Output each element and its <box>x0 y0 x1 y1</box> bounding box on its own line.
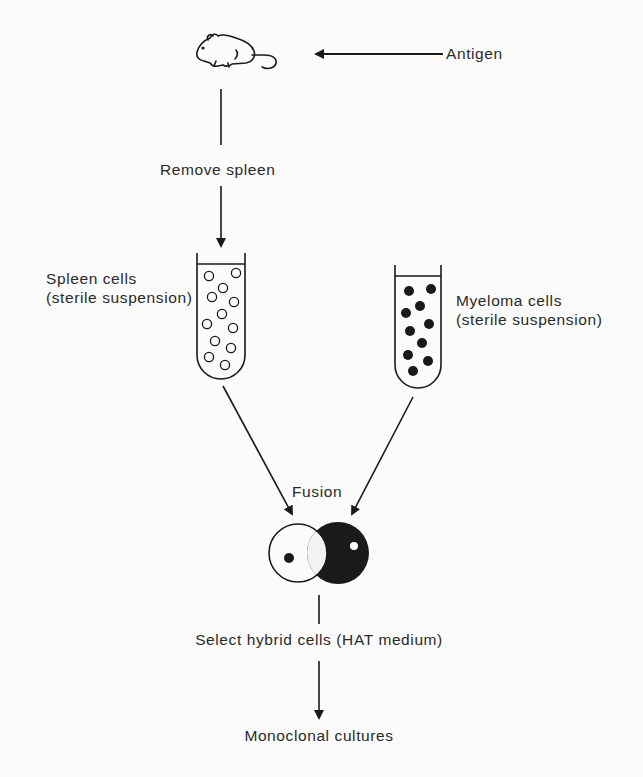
spleen-cell <box>204 352 213 361</box>
spleen-cell <box>229 297 238 306</box>
myeloma-cell <box>424 319 434 329</box>
remove-spleen-label: Remove spleen <box>160 160 276 179</box>
myeloma-cell <box>404 286 414 296</box>
antigen-label: Antigen <box>446 44 503 63</box>
spleen-cell <box>217 309 226 318</box>
fusion-label: Fusion <box>292 482 342 501</box>
spleen-cell <box>228 323 237 332</box>
myeloma-cell <box>423 356 433 366</box>
myeloma-cell <box>405 326 415 336</box>
select-hybrid-label: Select hybrid cells (HAT medium) <box>195 630 443 649</box>
myeloma-cells-label-line2: (sterile suspension) <box>456 310 602 329</box>
diagram-canvas: Antigen Remove spleen Spleen cells (ster… <box>0 0 643 777</box>
spleen-cell <box>202 319 211 328</box>
hybrid-cell-icon <box>269 522 369 584</box>
myeloma-cells-label-line1: Myeloma cells <box>456 291 562 310</box>
spleen-cells-label-line2: (sterile suspension) <box>46 288 192 307</box>
spleen-to-fusion-arrow <box>223 386 292 514</box>
myeloma-to-fusion-arrow <box>352 397 413 514</box>
myeloma-cell <box>417 338 427 348</box>
myeloma-tube <box>395 265 441 388</box>
mouse-icon <box>197 34 276 68</box>
myeloma-cell <box>415 301 425 311</box>
spleen-tube <box>197 253 245 379</box>
spleen-cell <box>220 360 229 369</box>
spleen-cell <box>231 268 240 277</box>
diagram-graphics <box>0 0 643 777</box>
spleen-cells-label-line1: Spleen cells <box>46 269 137 288</box>
myeloma-cell <box>426 284 436 294</box>
spleen-cell <box>218 283 227 292</box>
monoclonal-cultures-label: Monoclonal cultures <box>244 726 393 745</box>
myeloma-cell <box>403 350 413 360</box>
spleen-cell <box>207 292 216 301</box>
spleen-cell <box>226 343 235 352</box>
spleen-cell <box>210 336 219 345</box>
spleen-cell <box>204 271 213 280</box>
myeloma-cell <box>408 366 418 376</box>
myeloma-cell <box>401 308 411 318</box>
